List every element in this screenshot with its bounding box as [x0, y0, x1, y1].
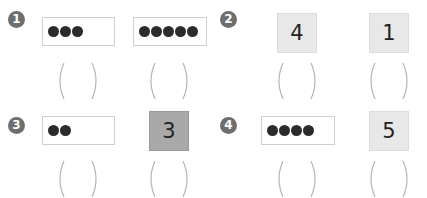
- problem-1-dot-box-b: [133, 17, 207, 46]
- problem-4-answer-a[interactable]: [277, 160, 317, 198]
- dot-icon: [279, 125, 290, 136]
- problem-2-answer-b[interactable]: [369, 62, 409, 100]
- problem-1-answer-b[interactable]: [149, 62, 189, 100]
- problem-3-numeral-tile: 3: [149, 111, 189, 151]
- problem-1-badge: 1: [8, 11, 25, 28]
- problem-2-answer-a[interactable]: [277, 62, 317, 100]
- problem-2-badge: 2: [220, 11, 237, 28]
- problem-2-numeral-tile-a: 4: [277, 13, 317, 53]
- dot-icon: [291, 125, 302, 136]
- problem-4-answer-b[interactable]: [369, 160, 409, 198]
- dot-icon: [175, 26, 186, 37]
- dot-icon: [60, 125, 71, 136]
- dot-icon: [48, 125, 59, 136]
- dot-icon: [163, 26, 174, 37]
- dot-icon: [139, 26, 150, 37]
- dot-icon: [48, 26, 59, 37]
- dot-icon: [187, 26, 198, 37]
- dot-icon: [303, 125, 314, 136]
- problem-4-badge: 4: [220, 117, 237, 134]
- dot-icon: [60, 26, 71, 37]
- problem-3-dot-box: [42, 116, 115, 145]
- problem-4-dot-box: [261, 116, 335, 145]
- problem-3-answer-b[interactable]: [149, 160, 189, 198]
- problem-1-answer-a[interactable]: [58, 62, 98, 100]
- problem-4-numeral-tile: 5: [369, 111, 409, 151]
- dot-icon: [267, 125, 278, 136]
- problem-1-dot-box-a: [42, 17, 115, 46]
- dot-icon: [72, 26, 83, 37]
- problem-3-answer-a[interactable]: [58, 160, 98, 198]
- problem-3-badge: 3: [8, 117, 25, 134]
- problem-2-numeral-tile-b: 1: [369, 13, 409, 53]
- dot-icon: [151, 26, 162, 37]
